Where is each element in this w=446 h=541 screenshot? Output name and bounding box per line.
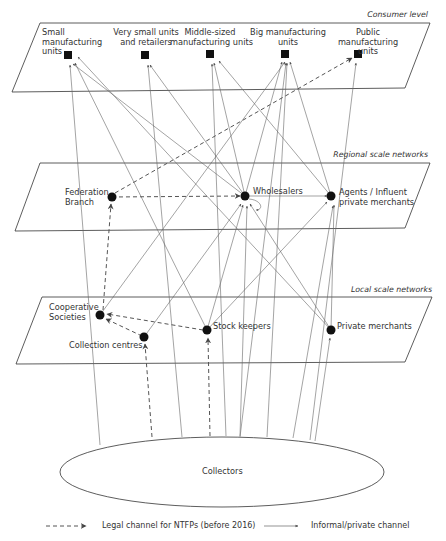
label-line: units (42, 47, 102, 57)
legend-legal: Legal channel for NTFPs (before 2016) (102, 521, 255, 530)
label-line: manufacturing units (170, 38, 250, 48)
label-public: Public manufacturing units (332, 28, 404, 57)
informal-channels (70, 57, 356, 445)
node-wholesalers (241, 192, 250, 201)
node-very-small (141, 51, 149, 59)
local-level-label: Local scale networks (351, 285, 432, 294)
label-wholesalers: Wholesalers (253, 187, 303, 197)
regional-level-label: Regional scale networks (333, 150, 428, 159)
consumer-level-label: Consumer level (367, 10, 428, 19)
node-middle (206, 50, 214, 58)
node-big (281, 50, 289, 58)
label-collection: Collection centres (69, 341, 143, 351)
label-federation: Federation Branch (65, 188, 109, 207)
label-small-mfg: Small manufacturing units (42, 28, 102, 57)
label-line: Societies (49, 313, 99, 323)
label-cooperative: Cooperative Societies (49, 303, 99, 322)
label-big: Big manufacturing units (250, 28, 326, 47)
label-private: Private merchants (337, 322, 412, 332)
label-line: units (332, 47, 404, 57)
legend-informal: Informal/private channel (311, 521, 409, 530)
node-agents (327, 192, 336, 201)
supply-chain-diagram (0, 0, 446, 541)
node-private (327, 326, 336, 335)
label-line: Branch (65, 198, 109, 208)
legal-channels (103, 58, 352, 437)
label-stock: Stock keepers (213, 322, 271, 332)
label-middle: Middle-sized manufacturing units (170, 28, 250, 47)
label-agents: Agents / Influent private merchants (339, 188, 414, 207)
wholesaler-self-loop (249, 199, 261, 210)
node-federation (108, 193, 117, 202)
label-line: private merchants (339, 198, 414, 208)
label-line: units (250, 38, 326, 48)
label-collectors: Collectors (202, 467, 243, 477)
node-stock (203, 326, 212, 335)
